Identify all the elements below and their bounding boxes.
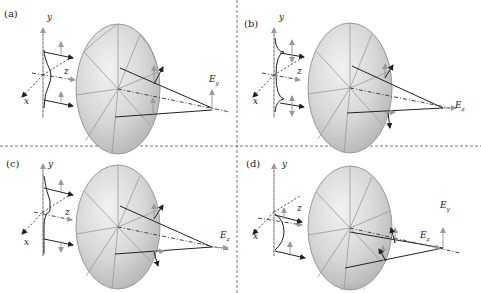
- panel-label-d: (d): [246, 158, 260, 169]
- axis-label-x-a: x: [24, 96, 29, 106]
- axis-label-y-a: y: [47, 12, 52, 22]
- field-label-d-ey: Ey: [440, 200, 450, 212]
- axis-label-z-b: z: [297, 66, 302, 76]
- figure: (a) (b) (c) (d) y z x Ey y z x Ez y z x …: [0, 0, 481, 293]
- axis-label-y-b: y: [279, 12, 284, 22]
- field-label-b: Ez: [455, 100, 465, 112]
- panel-label-a: (a): [4, 8, 18, 19]
- diagram-canvas: [0, 0, 481, 293]
- field-label-c: Ez: [220, 230, 230, 242]
- axis-label-y-d: y: [282, 159, 287, 169]
- axis-label-y-c: y: [48, 159, 53, 169]
- axis-label-x-b: x: [253, 96, 258, 106]
- field-label-d-ez: Ez: [420, 230, 430, 242]
- axis-label-z-a: z: [64, 66, 69, 76]
- panel-label-c: (c): [6, 158, 19, 169]
- axis-label-z-d: z: [297, 203, 302, 213]
- field-label-a: Ey: [209, 74, 219, 86]
- axis-label-x-d: x: [253, 231, 258, 241]
- panel-b: [253, 23, 456, 153]
- panel-c: [22, 164, 230, 289]
- caption-fragment: [20,21]: [0, 283, 481, 293]
- axis-label-x-c: x: [24, 237, 29, 247]
- panel-label-b: (b): [244, 18, 258, 29]
- panel-d: [253, 164, 460, 290]
- axis-label-z-c: z: [65, 207, 70, 217]
- panel-a: [22, 24, 230, 154]
